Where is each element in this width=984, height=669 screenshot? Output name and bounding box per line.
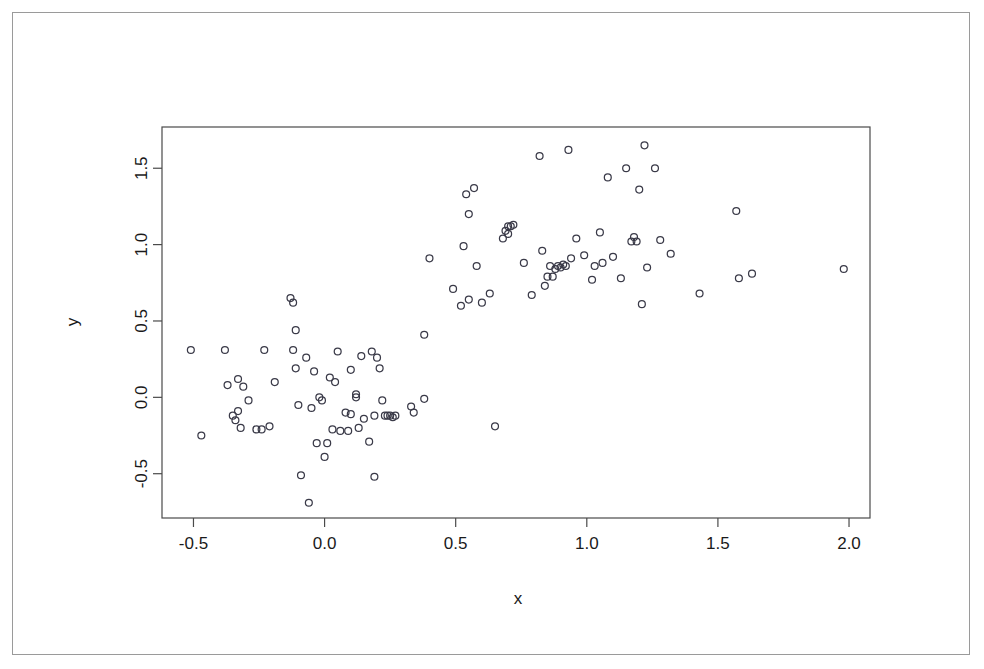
scatter-point	[735, 275, 742, 282]
scatter-point	[460, 243, 467, 250]
scatter-point	[581, 252, 588, 259]
scatter-point	[187, 347, 194, 354]
scatter-point	[292, 365, 299, 372]
x-axis-tick-label: 1.0	[575, 534, 599, 553]
scatter-point	[636, 186, 643, 193]
scatter-plot-canvas: -0.50.00.51.01.52.0 -0.50.00.51.01.5 x y	[0, 0, 984, 669]
scatter-point	[311, 368, 318, 375]
y-axis-title: y	[63, 317, 82, 326]
y-axis-tick-label: 1.5	[133, 156, 152, 180]
x-axis: -0.50.00.51.01.52.0	[179, 518, 861, 553]
scatter-point	[840, 266, 847, 273]
scatter-point	[541, 282, 548, 289]
scatter-plot-screenshot: -0.50.00.51.01.52.0 -0.50.00.51.01.5 x y	[0, 0, 984, 669]
scatter-point	[749, 270, 756, 277]
scatter-point	[667, 250, 674, 257]
scatter-point	[426, 255, 433, 262]
scatter-point	[457, 302, 464, 309]
scatter-point	[421, 395, 428, 402]
scatter-point	[266, 423, 273, 430]
scatter-point	[536, 153, 543, 160]
plot-frame	[162, 127, 870, 518]
scatter-point	[596, 229, 603, 236]
scatter-point	[465, 296, 472, 303]
scatter-point	[334, 348, 341, 355]
scatter-point	[421, 331, 428, 338]
scatter-point	[355, 424, 362, 431]
x-axis-tick-label: 2.0	[837, 534, 861, 553]
scatter-point	[271, 379, 278, 386]
scatter-point	[198, 432, 205, 439]
data-points	[187, 142, 847, 506]
scatter-point	[478, 299, 485, 306]
scatter-point	[303, 354, 310, 361]
y-axis-tick-label: 0.5	[133, 309, 152, 333]
scatter-point	[638, 301, 645, 308]
scatter-point	[332, 379, 339, 386]
scatter-point	[237, 424, 244, 431]
scatter-point	[657, 237, 664, 244]
scatter-point	[623, 165, 630, 172]
scatter-point	[245, 397, 252, 404]
scatter-point	[358, 353, 365, 360]
scatter-point	[450, 285, 457, 292]
scatter-point	[347, 366, 354, 373]
scatter-point	[321, 453, 328, 460]
y-axis-tick-label: 0.0	[133, 386, 152, 410]
scatter-point	[261, 347, 268, 354]
scatter-point	[224, 382, 231, 389]
x-axis-tick-label: 0.0	[313, 534, 337, 553]
scatter-point	[465, 211, 472, 218]
y-axis-tick-label: -0.5	[133, 459, 152, 488]
scatter-point	[539, 247, 546, 254]
x-axis-title: x	[514, 589, 523, 608]
scatter-point	[591, 263, 598, 270]
scatter-point	[308, 405, 315, 412]
x-axis-tick-label: -0.5	[179, 534, 208, 553]
scatter-point	[240, 383, 247, 390]
scatter-point	[368, 348, 375, 355]
scatter-point	[313, 440, 320, 447]
scatter-point	[492, 423, 499, 430]
scatter-point	[376, 365, 383, 372]
scatter-point	[486, 290, 493, 297]
scatter-point	[471, 185, 478, 192]
scatter-point	[379, 397, 386, 404]
scatter-point	[599, 259, 606, 266]
y-axis: -0.50.00.51.01.5	[133, 156, 163, 488]
scatter-point	[652, 165, 659, 172]
scatter-point	[329, 426, 336, 433]
y-axis-tick-label: 1.0	[133, 233, 152, 257]
scatter-point	[292, 327, 299, 334]
scatter-point	[568, 255, 575, 262]
scatter-point	[610, 253, 617, 260]
scatter-point	[305, 499, 312, 506]
scatter-point	[473, 263, 480, 270]
scatter-point	[235, 376, 242, 383]
scatter-point	[374, 354, 381, 361]
scatter-point	[345, 427, 352, 434]
scatter-point	[324, 440, 331, 447]
scatter-point	[371, 412, 378, 419]
x-axis-tick-label: 1.5	[706, 534, 730, 553]
scatter-point	[295, 402, 302, 409]
scatter-point	[337, 427, 344, 434]
scatter-point	[589, 276, 596, 283]
scatter-point	[371, 473, 378, 480]
scatter-point	[573, 235, 580, 242]
scatter-point	[298, 472, 305, 479]
scatter-point	[235, 408, 242, 415]
scatter-point	[696, 290, 703, 297]
scatter-point	[641, 142, 648, 149]
scatter-point	[360, 415, 367, 422]
x-axis-tick-label: 0.5	[444, 534, 468, 553]
scatter-point	[644, 264, 651, 271]
scatter-point	[528, 292, 535, 299]
scatter-point	[410, 409, 417, 416]
scatter-point	[733, 208, 740, 215]
scatter-point	[565, 146, 572, 153]
scatter-point	[604, 174, 611, 181]
plot-frame-rect	[162, 127, 870, 518]
scatter-point	[463, 191, 470, 198]
scatter-point	[520, 259, 527, 266]
